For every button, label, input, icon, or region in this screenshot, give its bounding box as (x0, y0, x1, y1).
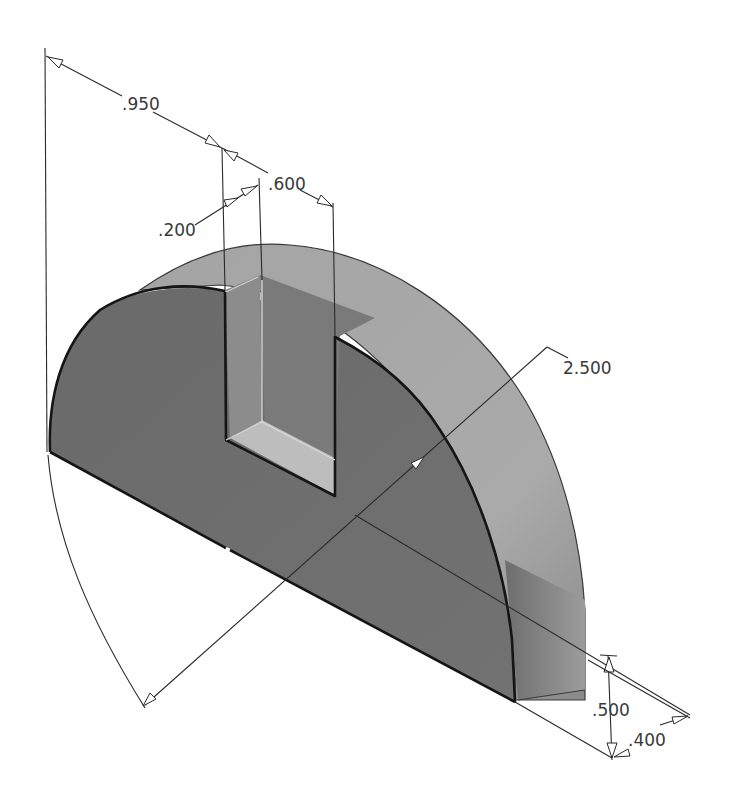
arrow-icon (48, 57, 63, 68)
arrow-icon (205, 135, 220, 147)
arrow-icon (614, 749, 630, 757)
dim-label-thickness: .500 (592, 700, 630, 720)
arrow-icon (224, 150, 238, 161)
dim-label-slot-offset: .950 (122, 94, 160, 114)
arrow-icon (317, 195, 332, 206)
dim-label-flat-depth: .400 (628, 730, 666, 750)
dim-label-radius: 2.500 (563, 358, 612, 378)
slot-left-side (225, 275, 262, 438)
arrow-icon (672, 716, 688, 724)
part-drawing: .950 .600 .200 2.500 .500 (0, 0, 740, 810)
dim-label-slot-depth: .200 (158, 220, 196, 240)
arrow-icon (224, 198, 238, 207)
arrow-icon (143, 693, 156, 706)
dimension-slot-depth: .200 (158, 185, 258, 240)
dim-label-slot-width: .600 (268, 174, 306, 194)
